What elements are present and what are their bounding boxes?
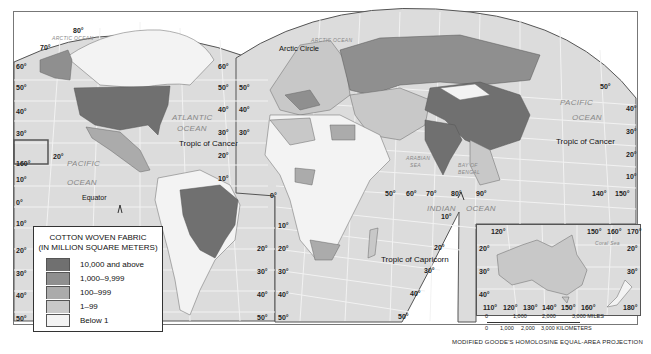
scale-bar: 0 1,000 2,000 3,000 MILES 0 1,000 2,000 … (478, 313, 628, 337)
lat-80-label: 80° (73, 27, 84, 34)
mid-lat-50-label: 50° (218, 84, 229, 91)
projection-label: MODIFIED GOODE'S HOMOLOSINE EQUAL-AREA P… (452, 339, 643, 345)
east-lat-50-label: 50° (600, 83, 611, 90)
lat-60-label: 60° (16, 63, 27, 70)
indian-ocean-label-1: INDIAN (427, 204, 456, 213)
lon-150-label: 150° (615, 190, 629, 197)
legend-item: 100–999 (46, 285, 162, 299)
inset-lon-150b-label: 150° (561, 304, 575, 311)
lat-0-label: 0° (16, 199, 23, 206)
lat-s40-label: 40° (16, 292, 27, 299)
legend-swatch (46, 286, 70, 299)
pacific-ocean-label-right-2: OCEAN (572, 113, 602, 122)
af-lat-30-label: 30° (278, 268, 289, 275)
tropic-of-capricorn-label: Tropic of Capricorn (381, 255, 449, 264)
arabian-sea-label-1: ARABIAN (406, 155, 430, 161)
scale-line (487, 322, 580, 323)
lat-s30-label: 30° (16, 270, 27, 277)
arctic-ocean-label-right: ARCTIC OCEAN (311, 37, 352, 43)
australia-map (477, 225, 640, 315)
legend-label: 100–999 (80, 288, 111, 297)
lon-160-label: 160° (16, 160, 30, 167)
legend-title: COTTON WOVEN FABRIC (IN MILLION SQUARE M… (34, 233, 162, 253)
inset-lat-20-label: 20° (479, 245, 490, 252)
europe-lat-30-label: 30° (239, 129, 250, 136)
lon-140-label: 140° (592, 190, 606, 197)
lat-50-label: 50° (16, 84, 27, 91)
coral-sea-label: Coral Sea (595, 240, 620, 246)
europe-lat-50-label: 50° (239, 84, 250, 91)
scale-km-3000: 3,000 KILOMETERS (541, 325, 592, 331)
lat-30-label: 30° (16, 130, 27, 137)
legend-label: 1,000–9,999 (80, 274, 125, 283)
australia-inset: 120° 150° 160° 170° 20° 30° 40° 20° 30° … (476, 224, 641, 316)
indian-lat-20-label: 20° (434, 244, 445, 251)
lat-70-label: 70° (40, 44, 51, 51)
inset-lon-110-label: 110° (483, 304, 497, 311)
indian-lat-10-label: 10° (441, 213, 452, 220)
indian-ocean-label-2: OCEAN (466, 204, 496, 213)
atlantic-ocean-label-1: ATLANTIC (172, 113, 212, 122)
lon-60-label: 60° (406, 190, 417, 197)
lat-s10-label: 10° (16, 220, 27, 227)
pacific-ocean-label-left-1: PACIFIC (67, 159, 100, 168)
legend-swatch (46, 272, 70, 285)
east-lat-10-label: 10° (626, 173, 637, 180)
sa-lat-50-label: 50° (257, 314, 268, 321)
lat-s20-label: 20° (16, 247, 27, 254)
sa-lat-30-label: 30° (257, 268, 268, 275)
scale-km-1000: 1,000 (500, 325, 514, 331)
legend-label: Below 1 (80, 316, 108, 325)
legend-label: 10,000 and above (80, 260, 144, 269)
legend: COTTON WOVEN FABRIC (IN MILLION SQUARE M… (33, 226, 163, 332)
lon-50-label: 50° (385, 190, 396, 197)
mid-lat-20-label: 20° (218, 152, 229, 159)
sa-lat-20-label: 20° (257, 245, 268, 252)
arctic-ocean-label-left: ARCTIC OCEAN (52, 35, 93, 41)
inset-lat-30-label: 30° (479, 268, 490, 275)
mid-lat-40-label: 40° (218, 106, 229, 113)
legend-item: 10,000 and above (46, 257, 162, 271)
lat-10-label: 10° (16, 176, 27, 183)
inset-lon-160-label: 160° (607, 228, 621, 235)
pacific-ocean-label-right-1: PACIFIC (560, 98, 593, 107)
inset-lat-40-label: 40° (479, 291, 490, 298)
mid-lat-10-label: 10° (218, 175, 229, 182)
legend-item: Below 1 (46, 313, 162, 327)
inset-lon-120b-label: 120° (503, 304, 517, 311)
lat-20-label: 20° (53, 153, 64, 160)
af-lat-10-label: 10° (278, 222, 289, 229)
lat-40-label: 40° (16, 108, 27, 115)
inset-lon-130-label: 130° (523, 304, 537, 311)
africa-lat-0-label: 0° (270, 192, 277, 199)
inset-lon-120-label: 120° (491, 228, 505, 235)
indian-lat-50-label: 50° (398, 313, 409, 320)
atlantic-ocean-label-2: OCEAN (177, 124, 207, 133)
tropic-of-cancer-label-left: Tropic of Cancer (179, 139, 238, 148)
legend-title-line-1: COTTON WOVEN FABRIC (34, 233, 162, 243)
legend-swatch (46, 258, 70, 271)
east-lat-20-label: 20° (626, 151, 637, 158)
arctic-circle-label: Arctic Circle (279, 44, 319, 53)
scale-miles-1000: 1,000 (513, 313, 527, 319)
tropic-of-cancer-label-right: Tropic of Cancer (556, 137, 615, 146)
scale-km-0: 0 (485, 325, 488, 331)
af-lat-20-label: 20° (278, 245, 289, 252)
legend-item: 1,000–9,999 (46, 271, 162, 285)
pacific-ocean-label-left-2: OCEAN (67, 178, 97, 187)
inset-right-lat-30-label: 30° (627, 268, 638, 275)
arabian-sea-label-2: SEA (410, 162, 421, 168)
scale-miles-2000: 2,000 (542, 313, 556, 319)
legend-title-line-2: (IN MILLION SQUARE METERS) (34, 243, 162, 253)
legend-swatch (46, 300, 70, 313)
af-lat-50-label: 50° (278, 314, 289, 321)
europe-lat-40-label: 40° (239, 106, 250, 113)
inset-lon-140-label: 140° (542, 304, 556, 311)
inset-right-lat-20-label: 20° (627, 245, 638, 252)
lon-70-label: 70° (426, 190, 437, 197)
sa-lat-40-label: 40° (257, 291, 268, 298)
inset-lon-180-label: 180° (623, 304, 637, 311)
mid-lat-30-label: 30° (218, 129, 229, 136)
inset-lon-160b-label: 160° (581, 304, 595, 311)
east-lat-40-label: 40° (626, 105, 637, 112)
